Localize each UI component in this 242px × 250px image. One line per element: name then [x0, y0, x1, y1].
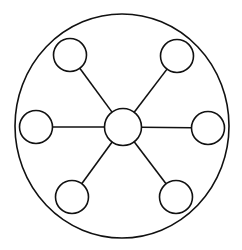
node-right: [192, 112, 225, 145]
hub-and-spoke-diagram: [0, 0, 242, 250]
spoke-line-top-right: [134, 69, 167, 112]
node-left: [20, 111, 53, 144]
node-top-right: [161, 40, 194, 73]
hub-node: [105, 109, 142, 146]
node-bottom-left: [56, 181, 89, 214]
spoke-line-top-left: [80, 68, 112, 112]
spoke-line-bottom-left: [82, 142, 112, 184]
node-bottom-right: [160, 181, 193, 214]
node-top-left: [54, 39, 87, 72]
spoke-line-right: [141, 127, 191, 128]
spoke-line-bottom-right: [134, 142, 166, 184]
